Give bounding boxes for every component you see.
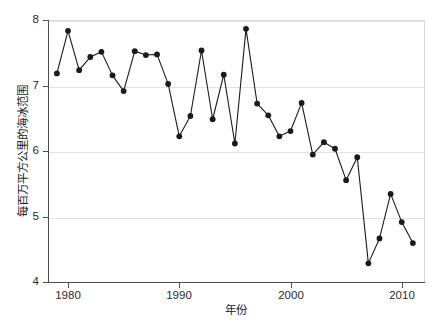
data-point-1990 <box>176 133 182 139</box>
plot-area <box>48 20 425 283</box>
data-point-2007 <box>365 260 371 266</box>
data-point-2002 <box>310 152 316 158</box>
y-tick-mark-5 <box>43 217 48 218</box>
data-point-2001 <box>299 100 305 106</box>
x-tick-mark-1980 <box>68 283 69 288</box>
data-point-1991 <box>187 113 193 119</box>
data-point-1995 <box>232 141 238 147</box>
y-tick-label-5: 5 <box>13 211 39 223</box>
data-point-1984 <box>110 72 116 78</box>
y-tick-mark-7 <box>43 86 48 87</box>
x-tick-label-2000: 2000 <box>261 290 321 302</box>
data-point-1992 <box>199 48 205 54</box>
sea-ice-extent-line-chart: 每百万平方公里的海冰范围 456781980199020002010 年份 <box>0 0 443 333</box>
data-point-2008 <box>377 236 383 242</box>
data-point-1998 <box>265 112 271 118</box>
data-point-1981 <box>76 67 82 73</box>
data-point-1989 <box>165 81 171 87</box>
y-tick-mark-8 <box>43 20 48 21</box>
data-point-1988 <box>154 52 160 58</box>
data-point-1980 <box>65 28 71 34</box>
x-tick-label-2010: 2010 <box>372 290 432 302</box>
y-tick-label-8: 8 <box>13 14 39 26</box>
data-point-2000 <box>288 128 294 134</box>
data-point-1993 <box>210 116 216 122</box>
data-point-2003 <box>321 139 327 145</box>
x-tick-label-1990: 1990 <box>149 290 209 302</box>
y-tick-mark-4 <box>43 282 48 283</box>
x-tick-mark-2010 <box>402 283 403 288</box>
data-point-1983 <box>99 49 105 55</box>
y-tick-label-7: 7 <box>13 80 39 92</box>
data-point-1999 <box>276 133 282 139</box>
data-point-1987 <box>143 52 149 58</box>
data-point-1997 <box>254 101 260 107</box>
data-point-1986 <box>132 48 138 54</box>
x-tick-label-1980: 1980 <box>38 290 98 302</box>
x-tick-mark-1990 <box>179 283 180 288</box>
data-point-2004 <box>332 146 338 152</box>
data-point-2005 <box>343 177 349 183</box>
data-point-1985 <box>121 88 127 94</box>
data-point-1979 <box>54 71 60 77</box>
y-tick-label-4: 4 <box>13 276 39 288</box>
y-axis-line <box>48 20 49 283</box>
x-axis-title: 年份 <box>48 305 424 317</box>
data-series-layer <box>48 21 424 283</box>
x-tick-mark-2000 <box>291 283 292 288</box>
data-point-2011 <box>410 240 416 246</box>
data-point-2006 <box>354 154 360 160</box>
y-tick-mark-6 <box>43 151 48 152</box>
y-tick-label-6: 6 <box>13 145 39 157</box>
data-point-2010 <box>399 219 405 225</box>
x-axis-line <box>48 282 425 283</box>
data-point-1994 <box>221 72 227 78</box>
data-point-1996 <box>243 26 249 32</box>
data-point-1982 <box>87 54 93 60</box>
data-point-2009 <box>388 191 394 197</box>
